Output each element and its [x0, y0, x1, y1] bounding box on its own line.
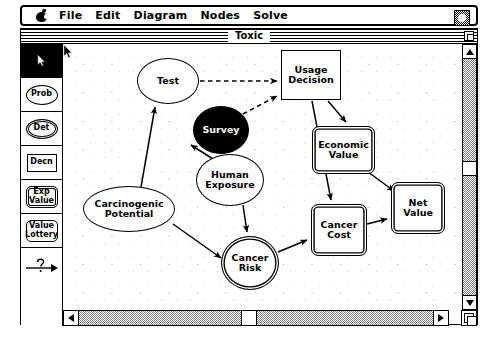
decision-node-label: Decn: [27, 154, 57, 172]
arc-usage-economic: [328, 101, 346, 122]
diagram-window: Toxic Prob Det Decn: [20, 28, 478, 325]
arc-question-tool[interactable]: [21, 248, 62, 281]
node-test[interactable]: Test: [137, 58, 199, 104]
vertical-scrollbar[interactable]: [462, 44, 477, 310]
node-cancer-cost-label-line2: Cost: [321, 230, 358, 241]
arc-cancercost-netvalue: [367, 219, 387, 224]
node-cancer-risk-label-line2: Risk: [232, 263, 269, 274]
apple-menu-icon[interactable]: [36, 10, 47, 22]
diagram-canvas[interactable]: Test Survey Usage Decision Carcinogeni: [63, 44, 464, 310]
node-human-exposure[interactable]: Human Exposure: [196, 154, 264, 206]
arc-human-cancerrisk: [243, 205, 247, 232]
expected-value-node-tool[interactable]: Exp Value: [21, 180, 62, 214]
node-cancer-risk[interactable]: Cancer Risk: [221, 236, 279, 290]
menu-bar: File Edit Diagram Nodes Solve: [20, 5, 478, 26]
menu-item-edit[interactable]: Edit: [95, 10, 120, 21]
node-usage-decision[interactable]: Usage Decision: [281, 50, 341, 100]
cursor-icon: [37, 54, 46, 67]
arc-carcino-test: [141, 107, 155, 187]
arc-survey-usage: [243, 96, 277, 114]
node-net-value-label-line2: Value: [403, 208, 433, 219]
node-test-label: Test: [157, 76, 179, 87]
node-economic-value[interactable]: Economic Value: [312, 126, 375, 174]
deterministic-node-label: Det: [26, 119, 58, 139]
expected-value-label-line2: Value: [29, 197, 54, 206]
vertical-scroll-thumb[interactable]: [462, 161, 477, 176]
tool-palette: Prob Det Decn Exp Value: [21, 44, 63, 326]
scroll-down-arrow[interactable]: [462, 295, 477, 310]
menu-item-solve[interactable]: Solve: [253, 10, 288, 21]
scroll-up-arrow[interactable]: [462, 44, 477, 59]
node-carcinogenic-label-line2: Potential: [94, 209, 163, 220]
node-human-exposure-label-line2: Exposure: [205, 180, 255, 191]
horizontal-scrollbar[interactable]: [63, 310, 449, 326]
window-title-bar[interactable]: Toxic: [21, 29, 477, 44]
deterministic-node-tool[interactable]: Det: [21, 112, 62, 146]
probability-node-label: Prob: [26, 85, 58, 105]
arrow-question-icon: [25, 255, 59, 275]
menu-item-file[interactable]: File: [59, 10, 82, 21]
arrow-cursor: [63, 44, 73, 59]
canvas-area: Test Survey Usage Decision Carcinogeni: [63, 44, 477, 326]
node-cancer-cost[interactable]: Cancer Cost: [311, 204, 367, 256]
window-title: Toxic: [228, 30, 270, 42]
scroll-left-arrow[interactable]: [63, 310, 79, 326]
menu-item-nodes[interactable]: Nodes: [200, 10, 240, 21]
scroll-right-arrow[interactable]: [433, 310, 449, 326]
node-carcinogenic-potential[interactable]: Carcinogenic Potential: [83, 186, 175, 232]
value-lottery-node-shape: Value Lottery: [26, 220, 58, 242]
arc-cancerrisk-cancercost: [278, 240, 307, 252]
node-survey[interactable]: Survey: [193, 106, 249, 154]
screen: File Edit Diagram Nodes Solve Toxic Pr: [0, 0, 490, 339]
value-lottery-label-line2: Lottery: [25, 231, 58, 240]
node-economic-value-label-line2: Value: [318, 150, 369, 161]
application-switcher-icon[interactable]: [454, 10, 470, 26]
zoom-box[interactable]: [464, 31, 474, 41]
expected-value-node-shape: Exp Value: [26, 186, 58, 208]
probability-node-tool[interactable]: Prob: [21, 78, 62, 112]
node-usage-decision-label-line2: Decision: [288, 75, 333, 86]
arc-carcino-cancerrisk: [173, 224, 221, 258]
node-net-value[interactable]: Net Value: [391, 182, 445, 234]
select-arrow-tool[interactable]: [21, 44, 62, 78]
value-lottery-node-tool[interactable]: Value Lottery: [21, 214, 62, 248]
menu-item-diagram[interactable]: Diagram: [134, 10, 188, 21]
node-survey-label: Survey: [202, 125, 239, 136]
window-resize-grow-box[interactable]: [461, 310, 477, 326]
decision-node-tool[interactable]: Decn: [21, 146, 62, 180]
horizontal-scroll-thumb[interactable]: [241, 310, 257, 326]
window-body: Prob Det Decn Exp Value: [21, 44, 477, 326]
